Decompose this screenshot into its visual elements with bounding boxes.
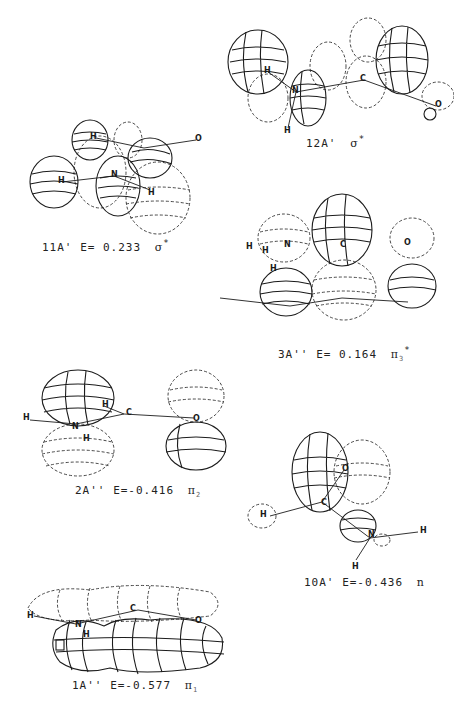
atom-label: N [75, 620, 82, 629]
orbital-caption-11a: 11A' E= 0.233 σ* [42, 238, 170, 254]
atom-label: H [23, 413, 30, 422]
orbital-symbol-sup: * [404, 345, 410, 355]
orbital-diagram-2a2 [20, 360, 240, 500]
orbital-label: 12A' [306, 137, 337, 150]
orbital-panel-2a2: H N H C O H 2A'' E=-0.416 π2 [20, 360, 240, 500]
atom-label: N [72, 422, 79, 431]
atom-label: H [352, 562, 359, 571]
orbital-energy: E=-0.436 [342, 576, 403, 589]
atom-label: O [435, 100, 442, 109]
atom-label: H [246, 242, 253, 251]
orbital-symbol: σ [350, 137, 359, 150]
orbital-symbol-sub: 3 [399, 355, 404, 363]
orbital-caption-10a: 10A' E=-0.436 n [304, 576, 425, 589]
atom-label: H [148, 188, 155, 197]
atom-label: C [321, 498, 327, 507]
orbital-panel-11a: H O H N H 11A' E= 0.233 σ* [0, 110, 220, 260]
orbital-caption-2a2: 2A'' E=-0.416 π2 [75, 484, 201, 499]
atom-label: C [360, 74, 366, 83]
atom-label: C [340, 240, 346, 249]
atom-label: N [368, 530, 375, 539]
orbital-symbol-sup: * [359, 134, 365, 144]
atom-label: O [193, 414, 200, 423]
atom-label: H [90, 132, 97, 141]
orbital-panel-1a2: H N H C O 1A'' E=-0.577 π1 [20, 580, 240, 712]
atom-label: H [262, 246, 269, 255]
orbital-panel-12a: H C H N O 12A' σ* [210, 0, 454, 160]
atom-label: H [102, 400, 109, 409]
orbital-energy: E=-0.577 [110, 679, 171, 692]
atom-label: H [270, 264, 277, 273]
orbital-energy: E= 0.233 [80, 241, 141, 254]
atom-label: C [126, 408, 132, 417]
orbital-symbol: σ [155, 241, 164, 254]
atom-label: O [195, 616, 202, 625]
orbital-symbol: n [417, 576, 425, 589]
orbital-symbol: π [188, 484, 196, 497]
atom-label: N [111, 170, 118, 179]
atom-label: N [284, 240, 291, 249]
orbital-diagram-10a [270, 420, 454, 590]
orbital-label: 1A'' [72, 679, 103, 692]
orbital-label: 11A' [42, 241, 73, 254]
orbital-panel-3a2: H N H C O H 3A'' E= 0.164 π3* [250, 180, 454, 330]
atom-label: O [404, 238, 411, 247]
orbital-symbol: π [391, 348, 399, 361]
orbital-label: 2A'' [75, 484, 106, 497]
orbital-caption-1a2: 1A'' E=-0.577 π1 [72, 679, 198, 694]
orbital-label: 3A'' [278, 348, 309, 361]
orbital-energy: E=-0.416 [113, 484, 174, 497]
atom-label: H [420, 526, 427, 535]
atom-label: H [284, 126, 291, 135]
atom-label: H [83, 434, 90, 443]
orbital-energy: E= 0.164 [316, 348, 377, 361]
orbital-panel-10a: O C H N H H 10A' E=-0.436 n [270, 420, 454, 590]
atom-label: O [342, 464, 349, 473]
atom-label: O [195, 134, 202, 143]
orbital-label: 10A' [304, 576, 335, 589]
atom-label: H [27, 611, 34, 620]
orbital-caption-12a: 12A' σ* [306, 134, 365, 150]
atom-label: H [83, 630, 90, 639]
atom-label: H [58, 176, 65, 185]
atom-label: H [264, 66, 271, 75]
orbital-symbol-sub: 1 [193, 686, 198, 694]
orbital-symbol: π [185, 679, 193, 692]
orbital-caption-3a2: 3A'' E= 0.164 π3* [278, 345, 411, 363]
atom-label: H [260, 510, 267, 519]
orbital-symbol-sup: * [163, 238, 169, 248]
atom-label: C [130, 604, 136, 613]
orbital-diagram-3a2 [250, 180, 454, 330]
atom-label: N [292, 86, 299, 95]
orbital-symbol-sub: 2 [196, 491, 201, 499]
